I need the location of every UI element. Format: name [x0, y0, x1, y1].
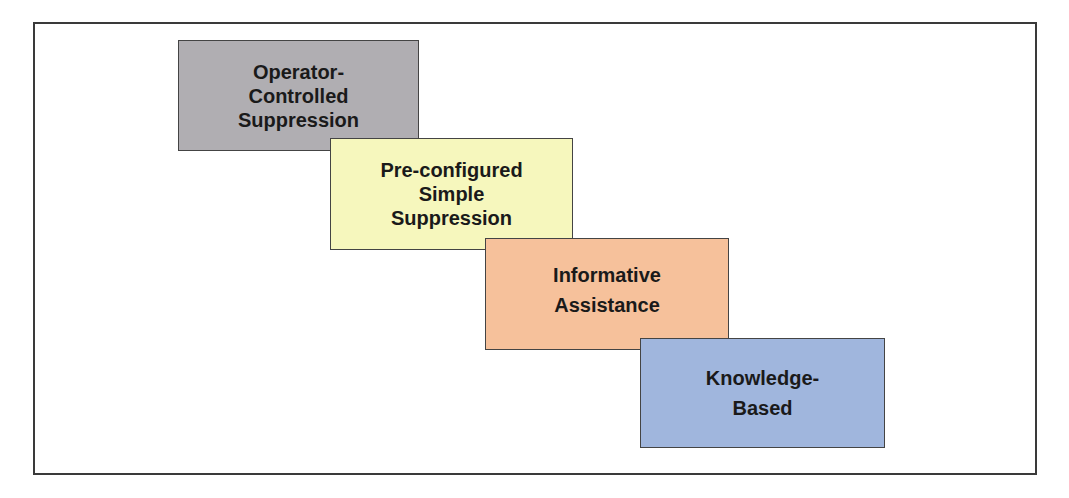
step-label-line: Controlled	[238, 84, 359, 108]
step-operator-controlled-suppression: Operator- Controlled Suppression	[178, 40, 419, 151]
step-label-line: Based	[706, 396, 819, 420]
step-preconfigured-simple-suppression: Pre-configured Simple Suppression	[330, 138, 573, 250]
step-knowledge-based: Knowledge- Based	[640, 338, 885, 448]
step-label-line: Pre-configured	[380, 158, 522, 182]
step-label-line: Simple	[380, 182, 522, 206]
step-informative-assistance: Informative Assistance	[485, 238, 729, 350]
step-label-line: Suppression	[238, 108, 359, 132]
step-label-line: Suppression	[380, 206, 522, 230]
step-label-line: Assistance	[553, 293, 661, 317]
step-label-line: Operator-	[238, 60, 359, 84]
step-label-line: Informative	[553, 263, 661, 287]
step-label-line: Knowledge-	[706, 366, 819, 390]
